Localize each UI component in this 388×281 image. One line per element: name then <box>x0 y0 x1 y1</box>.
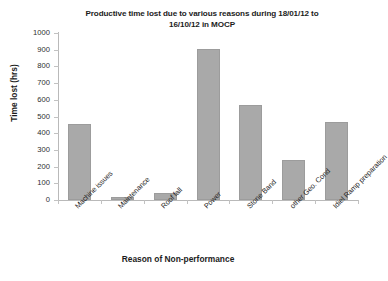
chart-title: Productive time lost due to various reas… <box>52 8 352 30</box>
chart-title-line2: 16/10/12 in MOCP <box>52 19 352 30</box>
x-tick-mark <box>187 200 188 204</box>
x-tick-mark <box>101 200 102 204</box>
x-tick-mark <box>315 200 316 204</box>
y-tick-label: 900 <box>16 46 50 54</box>
y-tick-label: 700 <box>16 79 50 87</box>
y-tick-label: 300 <box>16 146 50 154</box>
bar-idiel-ramp-preparation[interactable] <box>325 122 348 200</box>
x-axis-title: Reason of Non-performance <box>58 254 298 264</box>
y-tick-label: 400 <box>16 129 50 137</box>
bar-power[interactable] <box>197 49 220 200</box>
y-tick-label: 200 <box>16 163 50 171</box>
chart-title-line1: Productive time lost due to various reas… <box>85 9 318 18</box>
x-tick-mark <box>358 200 359 204</box>
x-tick-mark <box>144 200 145 204</box>
x-tick-mark <box>58 200 59 204</box>
y-tick-label: 500 <box>16 113 50 121</box>
y-tick-label: 1000 <box>16 29 50 37</box>
x-tick-mark <box>229 200 230 204</box>
x-tick-mark <box>272 200 273 204</box>
y-tick-label: 100 <box>16 179 50 187</box>
y-tick-label: 800 <box>16 62 50 70</box>
bar-stone-band[interactable] <box>239 105 262 200</box>
y-tick-label: 600 <box>16 96 50 104</box>
y-tick-label: 0 <box>16 196 50 204</box>
